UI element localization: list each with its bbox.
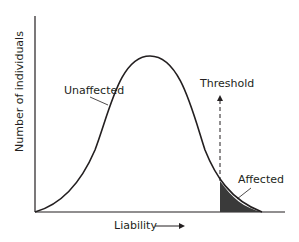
y-axis-label: Number of individuals [14, 31, 25, 152]
affected-leader [237, 188, 251, 199]
unaffected-leader [90, 97, 108, 105]
affected-label: Affected [238, 174, 284, 185]
x-axis-label: Liability [114, 220, 157, 231]
liability-diagram [0, 0, 299, 242]
threshold-label: Threshold [200, 78, 254, 89]
unaffected-label: Unaffected [64, 85, 124, 96]
